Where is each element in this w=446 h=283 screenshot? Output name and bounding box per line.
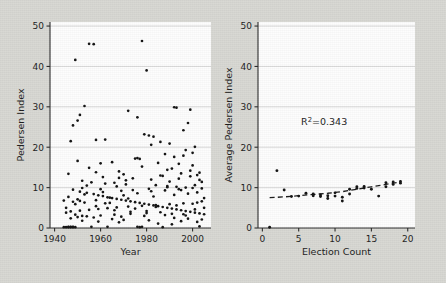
- data-point: [72, 225, 75, 228]
- data-point: [129, 210, 132, 213]
- data-point: [141, 225, 144, 228]
- data-point: [189, 210, 192, 213]
- data-point: [102, 195, 105, 198]
- data-point: [175, 208, 178, 211]
- data-point: [138, 202, 141, 205]
- data-point: [72, 188, 75, 191]
- data-point: [67, 196, 70, 199]
- y-tick-label-50: 50: [33, 21, 45, 31]
- data-point: [168, 203, 171, 206]
- data-point: [150, 143, 153, 146]
- data-point: [95, 139, 98, 142]
- data-point: [143, 202, 146, 205]
- data-point: [171, 167, 174, 170]
- data-point: [99, 188, 102, 191]
- data-point: [111, 218, 114, 221]
- data-point: [189, 108, 192, 111]
- data-point: [200, 187, 203, 190]
- data-point: [92, 216, 95, 219]
- data-point: [164, 153, 167, 156]
- data-point: [194, 208, 197, 211]
- data-point: [341, 196, 344, 199]
- data-point: [113, 181, 116, 184]
- data-point: [115, 206, 118, 209]
- data-point: [65, 206, 68, 209]
- data-point: [106, 207, 109, 210]
- data-point: [203, 197, 206, 200]
- data-point: [108, 202, 111, 205]
- data-point: [182, 154, 185, 157]
- y-tick-label-40: 40: [33, 62, 45, 72]
- data-point: [62, 199, 65, 202]
- data-point: [164, 214, 167, 217]
- data-point: [355, 187, 358, 190]
- data-point: [141, 165, 144, 168]
- data-point: [76, 216, 79, 219]
- data-point: [79, 209, 82, 212]
- data-point: [191, 187, 194, 190]
- data-point: [194, 211, 197, 214]
- data-point: [145, 69, 148, 72]
- data-point: [171, 207, 174, 210]
- r-squared-value: =0.343: [312, 116, 347, 127]
- data-point: [182, 213, 185, 216]
- data-point: [136, 225, 139, 228]
- data-point: [97, 194, 100, 197]
- data-point: [166, 206, 169, 209]
- data-point: [290, 195, 293, 198]
- data-point: [88, 42, 91, 45]
- data-point: [106, 196, 109, 199]
- data-point: [191, 202, 194, 205]
- data-point: [198, 225, 201, 228]
- data-point: [88, 166, 91, 169]
- data-point: [74, 59, 77, 62]
- data-point: [115, 198, 118, 201]
- data-point: [196, 191, 199, 194]
- data-point: [182, 202, 185, 205]
- data-point: [159, 174, 162, 177]
- two-panel-scatter-figure: 010203040501940196019802000YearPedersen …: [0, 0, 446, 283]
- data-point: [152, 135, 155, 138]
- data-point: [134, 207, 137, 210]
- data-point: [102, 191, 105, 194]
- data-point: [198, 171, 201, 174]
- data-point: [99, 214, 102, 217]
- data-point: [191, 164, 194, 167]
- data-point: [184, 149, 187, 152]
- data-point: [79, 190, 82, 193]
- data-point: [326, 194, 329, 197]
- data-point: [122, 173, 125, 176]
- panel-left: 010203040501940196019802000YearPedersen …: [15, 21, 211, 257]
- y-tick-label-20: 20: [241, 143, 253, 153]
- data-point: [363, 187, 366, 190]
- data-point: [97, 208, 100, 211]
- data-point: [134, 201, 137, 204]
- x-tick-label-1960: 1960: [89, 234, 112, 244]
- data-point: [79, 114, 82, 117]
- y-tick-label-30: 30: [241, 102, 253, 112]
- y-axis-title-right: Average Pedersen Index: [223, 67, 234, 182]
- data-point: [184, 214, 187, 217]
- data-point: [312, 194, 315, 197]
- data-point: [177, 177, 180, 180]
- data-point: [175, 185, 178, 188]
- data-point: [180, 172, 183, 175]
- data-point: [203, 206, 206, 209]
- x-tick-label-5: 5: [296, 234, 302, 244]
- data-point: [175, 106, 178, 109]
- data-point: [187, 122, 190, 125]
- x-axis-title-left: Year: [119, 246, 140, 257]
- data-point: [67, 225, 70, 228]
- data-point: [161, 206, 164, 209]
- data-point: [152, 195, 155, 198]
- data-point: [136, 116, 139, 119]
- data-point: [141, 40, 144, 43]
- data-point: [131, 177, 134, 180]
- data-point: [200, 200, 203, 203]
- data-point: [92, 43, 95, 46]
- data-point: [76, 160, 79, 163]
- data-point: [143, 133, 146, 136]
- data-point: [180, 220, 183, 223]
- data-point: [120, 215, 123, 218]
- data-point: [81, 215, 84, 218]
